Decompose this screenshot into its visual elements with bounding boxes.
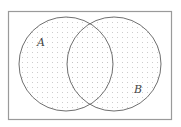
set-b-label: B [133,83,142,96]
venn-diagram: A B [0,0,181,127]
set-a-label: A [36,36,45,49]
